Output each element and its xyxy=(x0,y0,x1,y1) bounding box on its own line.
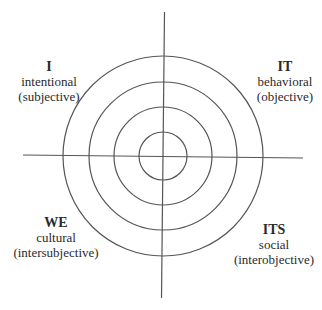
quadrant-title: IT xyxy=(248,59,322,74)
quadrant-lower-left-label: WE cultural (intersubjective) xyxy=(0,215,112,260)
quadrant-subtitle: (interobjective) xyxy=(226,252,322,267)
quadrant-upper-right-label: IT behavioral (objective) xyxy=(248,59,322,104)
quadrant-descriptor: social xyxy=(226,237,322,252)
quadrant-subtitle: (intersubjective) xyxy=(0,245,112,260)
quadrant-title: WE xyxy=(0,215,112,230)
quadrant-descriptor: intentional xyxy=(6,74,92,89)
quadrant-descriptor: cultural xyxy=(0,230,112,245)
quadrant-descriptor: behavioral xyxy=(248,74,322,89)
quadrant-title: I xyxy=(6,59,92,74)
quadrant-lower-right-label: ITS social (interobjective) xyxy=(226,222,322,267)
vertical-axis xyxy=(162,12,165,298)
quadrant-subtitle: (objective) xyxy=(248,89,322,104)
quadrant-title: ITS xyxy=(226,222,322,237)
quadrant-subtitle: (subjective) xyxy=(6,89,92,104)
quadrant-upper-left-label: I intentional (subjective) xyxy=(6,59,92,104)
